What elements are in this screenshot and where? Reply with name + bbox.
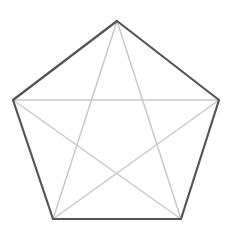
edge-top-right [117,21,219,100]
figure-canvas [0,0,237,236]
diagonal-top-to-bottom-left [53,21,117,219]
edge-top-left [13,21,117,100]
edge-right-lower [181,100,219,219]
diagonal-top-to-bottom-right [117,21,181,219]
diagonal-bottom-right-to-left [13,100,181,219]
edge-left-lower [13,100,53,219]
diagonal-right-to-bottom-left [53,100,219,219]
pentagon-outline-group [13,21,219,219]
pentagon-diagram [0,0,237,236]
